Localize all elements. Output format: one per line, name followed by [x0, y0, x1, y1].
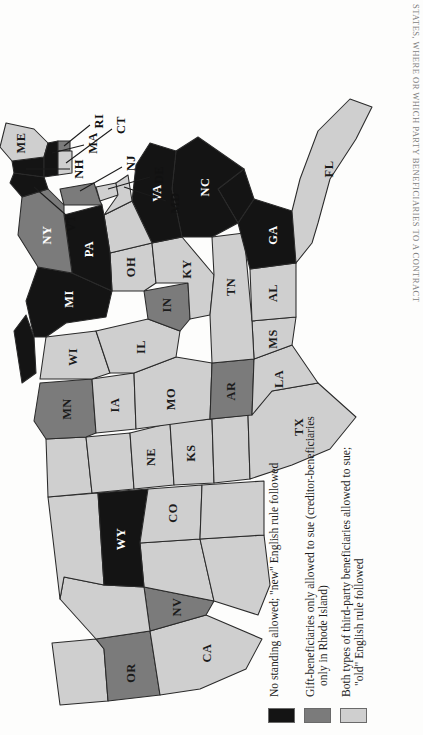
legend-item-no-standing[interactable]: No standing allowed; "new" English rule …	[268, 416, 295, 723]
map-legend: No standing allowed; "new" English rule …	[0, 0, 423, 735]
figure-caption-strip: STATES, WHERE OR WHICH PARTY BENEFICIARI…	[401, 0, 423, 367]
legend-rotation-wrapper: No standing allowed; "new" English rule …	[0, 0, 423, 735]
legend-label-no-standing: No standing allowed; "new" English rule …	[268, 463, 281, 697]
legend-label-gift-beneficiaries: Gift-beneficiaries only allowed to sue (…	[304, 416, 331, 697]
legend-item-both-types[interactable]: Both types of third-party beneficiaries …	[340, 416, 367, 723]
legend-swatch-light-gray	[340, 708, 367, 723]
figure-caption-text: STATES, WHERE OR WHICH PARTY BENEFICIARI…	[411, 4, 421, 302]
legend-swatch-black	[268, 708, 295, 723]
legend-label-both-types: Both types of third-party beneficiaries …	[340, 447, 367, 697]
legend-swatch-medium-gray	[304, 708, 331, 723]
legend-item-gift-beneficiaries[interactable]: Gift-beneficiaries only allowed to sue (…	[304, 416, 331, 723]
